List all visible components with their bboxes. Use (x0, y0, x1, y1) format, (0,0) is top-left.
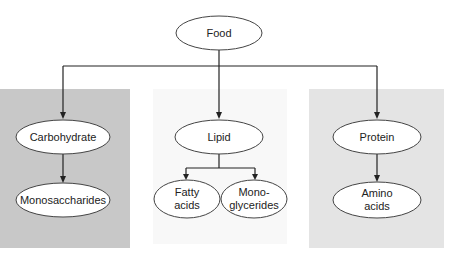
node-fatty-acids-label-line2: acids (174, 199, 200, 211)
node-protein-label: Protein (360, 131, 395, 143)
edges (60, 50, 380, 183)
node-monosaccharides-label: Monosaccharides (20, 194, 107, 206)
node-amino-acids: Amino acids (333, 182, 421, 218)
node-amino-acids-label-line2: acids (364, 200, 390, 212)
arrowhead-amino-acids-icon (374, 175, 380, 182)
node-lipid: Lipid (175, 120, 263, 154)
arrowhead-lipid-icon (216, 112, 222, 119)
node-monosaccharides: Monosaccharides (16, 183, 110, 217)
node-food-label: Food (206, 27, 231, 39)
node-fatty-acids: Fatty acids (154, 180, 220, 218)
arrowhead-monoglycerides-icon (252, 174, 258, 180)
node-fatty-acids-label-line1: Fatty (175, 186, 200, 198)
node-monoglycerides: Mono- glycerides (221, 180, 287, 218)
arrowhead-protein-icon (374, 112, 380, 119)
arrowhead-fatty-acids-icon (183, 174, 189, 180)
node-amino-acids-label-line1: Amino (361, 187, 392, 199)
node-carbohydrate: Carbohydrate (16, 120, 110, 154)
node-monoglycerides-label-line2: glycerides (229, 199, 279, 211)
node-monoglycerides-label-line1: Mono- (238, 186, 270, 198)
arrowhead-carbohydrate-icon (60, 112, 66, 119)
node-food: Food (176, 16, 262, 50)
food-digestion-diagram: Food Carbohydrate Monosaccharides Lipid … (0, 0, 453, 263)
node-protein: Protein (333, 120, 421, 154)
node-carbohydrate-label: Carbohydrate (30, 131, 97, 143)
node-lipid-label: Lipid (207, 131, 230, 143)
arrowhead-monosaccharides-icon (60, 176, 66, 183)
